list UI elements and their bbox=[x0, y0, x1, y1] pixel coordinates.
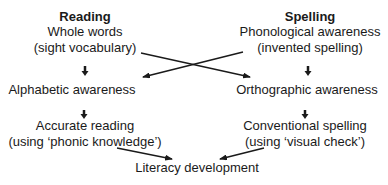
spelling-heading: Spelling bbox=[285, 9, 336, 25]
reading-alphabetic-awareness: Alphabetic awareness bbox=[8, 82, 135, 98]
literacy-development: Literacy development bbox=[135, 160, 259, 176]
spelling-invented-spelling: (invented spelling) bbox=[257, 40, 363, 56]
cross-arrow-to-alphabetic bbox=[143, 52, 243, 77]
reading-sight-vocabulary: (sight vocabulary) bbox=[34, 40, 137, 56]
reading-accurate-reading: Accurate reading bbox=[36, 118, 134, 134]
reading-whole-words: Whole words bbox=[47, 24, 122, 40]
spelling-phonological-awareness: Phonological awareness bbox=[240, 24, 381, 40]
spelling-visual-check: (using ‘visual check’) bbox=[245, 134, 365, 150]
spelling-orthographic-awareness: Orthographic awareness bbox=[236, 82, 378, 98]
spelling-conventional-spelling: Conventional spelling bbox=[243, 118, 367, 134]
reading-heading: Reading bbox=[59, 9, 110, 25]
down-arrow-icon bbox=[82, 66, 89, 76]
reading-phonic-knowledge: (using ‘phonic knowledge’) bbox=[8, 134, 161, 150]
down-arrow-icon bbox=[305, 66, 312, 76]
